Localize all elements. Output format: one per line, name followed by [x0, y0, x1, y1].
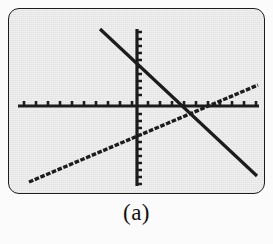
figure-caption: (a)	[0, 200, 273, 226]
descending-line-series	[100, 29, 257, 176]
plot-area	[9, 9, 265, 194]
ascending-line-series	[29, 85, 258, 182]
graphing-calculator-screen	[8, 8, 265, 194]
figure-root: (a)	[0, 0, 273, 244]
